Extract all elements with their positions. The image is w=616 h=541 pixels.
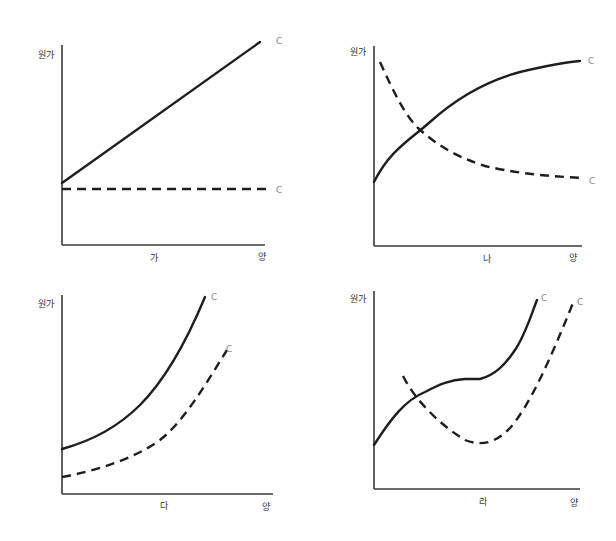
panel-na-title: 나 [483,254,491,264]
panel-na-solid-curve [374,61,580,182]
panel-na-dashed-curve [380,62,583,178]
panel-da-dashed-tag: C [226,344,232,354]
panel-ga-solid-tag: C [276,36,282,46]
panel-ra-dashed-tag: C [577,297,583,307]
panel-ra-x-label: 양 [570,498,578,508]
panel-da-y-label: 원가 [38,299,54,309]
panel-na-x-label: 양 [569,253,577,263]
panel-ga-dashed-tag: C [276,185,282,195]
panel-ga-title: 가 [150,253,158,263]
panel-da-title: 다 [160,501,169,511]
panel-na: 원가 양 나 C C [350,46,595,264]
panel-ga: 원가 양 가 C C [38,36,282,263]
panel-na-dashed-tag: C [589,176,595,186]
panel-da-x-label: 양 [262,502,270,512]
panel-ra-dashed-curve [403,303,573,443]
panel-ga-y-label: 원가 [38,50,54,60]
panel-ra-solid-tag: C [541,293,547,303]
panel-na-solid-tag: C [588,56,594,66]
panel-da: 원가 양 다 C C [38,292,273,512]
panel-na-y-label: 원가 [350,47,366,57]
panel-ra-title: 라 [479,497,488,507]
cost-curve-diagrams: 원가 양 가 C C 원가 양 나 C C 원가 양 다 C C 원가 양 라 [0,0,616,541]
panel-ra-y-label: 원가 [350,294,366,304]
panel-ra: 원가 양 라 C C [350,291,583,508]
panel-ra-solid-curve [374,300,537,445]
panel-da-dashed-curve [62,350,227,477]
panel-da-solid-tag: C [211,292,217,302]
panel-ga-solid-curve [62,42,260,183]
panel-da-solid-curve [62,297,205,449]
panel-ga-x-label: 양 [258,252,266,262]
